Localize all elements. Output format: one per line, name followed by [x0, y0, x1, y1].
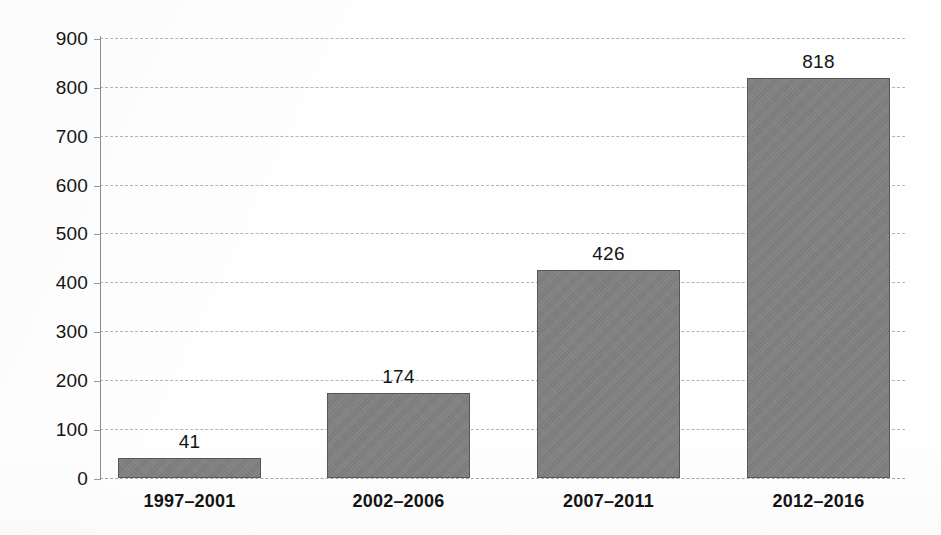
y-axis-tick-labels: 900 800 700 600 500 400 300 200 100 0 — [0, 38, 88, 478]
y-tick-label: 800 — [10, 78, 88, 97]
bar[interactable] — [747, 78, 890, 478]
bar-value-label: 426 — [592, 244, 624, 263]
bar-slot: 426 — [537, 38, 680, 478]
y-tick-label: 400 — [10, 273, 88, 292]
bar-chart-figure: 900 800 700 600 500 400 300 200 100 0 — [0, 0, 941, 535]
x-axis-category-label: 2012–2016 — [747, 492, 890, 510]
bar[interactable] — [327, 393, 470, 478]
y-tick-label: 500 — [10, 224, 88, 243]
y-tick-label: 100 — [10, 420, 88, 439]
y-axis-line — [100, 36, 101, 480]
bar-value-label: 174 — [382, 367, 414, 386]
y-tick-label: 0 — [10, 469, 88, 488]
x-axis-category-label: 2002–2006 — [327, 492, 470, 510]
x-axis-category-label: 1997–2001 — [118, 492, 261, 510]
plot-area: 41 174 426 818 — [100, 38, 905, 478]
y-tick-label: 700 — [10, 127, 88, 146]
y-tick-label: 600 — [10, 176, 88, 195]
bar-slot: 174 — [327, 38, 470, 478]
bar[interactable] — [118, 458, 261, 478]
x-axis-category-label: 2007–2011 — [537, 492, 680, 510]
bar-value-label: 41 — [179, 432, 201, 451]
y-tick-label: 900 — [10, 29, 88, 48]
y-tick-label: 200 — [10, 371, 88, 390]
bar-slot: 818 — [747, 38, 890, 478]
bar-value-label: 818 — [802, 52, 834, 71]
y-tick-label: 300 — [10, 322, 88, 341]
bar-slot: 41 — [118, 38, 261, 478]
gridline-0-baseline — [100, 478, 905, 479]
bar[interactable] — [537, 270, 680, 478]
